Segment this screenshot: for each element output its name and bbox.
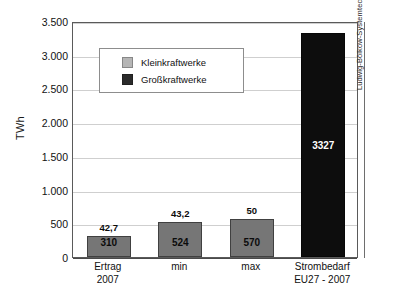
x-axis-category-line: 2007 (62, 273, 154, 286)
chart-figure: TWh 05001.0001.5002.0002.5003.0003.500 3… (0, 0, 395, 307)
bar[interactable]: 570 (230, 219, 274, 257)
bar[interactable]: 3327 (301, 33, 345, 257)
y-axis-tick-500: 500 (22, 218, 68, 230)
chart-legend: KleinkraftwerkeGroßkraftwerke (99, 48, 244, 93)
legend-swatch-icon (122, 74, 133, 85)
x-axis-category-labels: Ertrag2007minmaxStrombedarfEU27 - 2007 (72, 260, 358, 294)
y-axis-tick-1500: 1.500 (22, 151, 68, 163)
y-axis-tick-1000: 1.000 (22, 185, 68, 197)
x-axis-category-line: Strombedarf (277, 260, 369, 273)
bar-value-label: 524 (159, 237, 201, 248)
y-axis-tick-3000: 3.000 (22, 50, 68, 62)
y-axis-tick-2000: 2.000 (22, 117, 68, 129)
legend-swatch-icon (122, 57, 133, 68)
y-axis-tick-2500: 2.500 (22, 83, 68, 95)
x-axis-category-label: StrombedarfEU27 - 2007 (277, 260, 369, 286)
bar[interactable]: 310 (87, 236, 131, 257)
bar[interactable]: 524 (158, 222, 202, 257)
bar-value-label: 310 (88, 237, 130, 248)
bar-value-label: 3327 (302, 140, 344, 151)
bar-group: 3327 (288, 23, 360, 257)
axis-baseline (73, 258, 357, 259)
legend-item-label: Kleinkraftwerke (141, 57, 206, 68)
bar-top-annotation: 43,2 (152, 208, 208, 219)
legend-item-label: Großkraftwerke (141, 74, 206, 85)
bar-top-annotation: 50 (224, 205, 280, 216)
legend-item[interactable]: Großkraftwerke (100, 71, 243, 88)
y-axis-tick-labels: 05001.0001.5002.0002.5003.0003.500 (22, 22, 68, 258)
y-axis-tick-3500: 3.500 (22, 16, 68, 28)
x-axis-category-line: EU27 - 2007 (277, 273, 369, 286)
credit-text: Ludwig-Bölkow-Systemtechnik GmbH, 2010 (352, 0, 366, 90)
bar-top-annotation: 42,7 (81, 222, 137, 233)
bar-value-label: 570 (231, 237, 273, 248)
legend-item[interactable]: Kleinkraftwerke (100, 54, 243, 71)
